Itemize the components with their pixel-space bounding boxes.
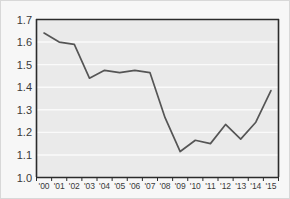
x-axis-tick-label: '06	[129, 181, 140, 191]
x-axis-tick-labels: '00'01'02'03'04'05'06'07'08'09'10'11'12'…	[39, 181, 277, 191]
x-axis-tick-label: '12	[220, 181, 231, 191]
x-axis-tick-label: '13	[235, 181, 246, 191]
y-axis-tick-label: 1.7	[17, 14, 32, 26]
x-axis-tick-label: '01	[54, 181, 65, 191]
x-axis-tick-label: '07	[144, 181, 155, 191]
x-axis-tick-label: '10	[190, 181, 201, 191]
x-axis-tick-label: '11	[205, 181, 216, 191]
x-axis-tick-label: '14	[250, 181, 261, 191]
x-axis-tick-label: '05	[114, 181, 125, 191]
x-axis-tick-label: '02	[69, 181, 80, 191]
x-axis-tick-label: '04	[99, 181, 110, 191]
y-axis-tick-label: 1.1	[17, 149, 32, 161]
y-axis-tick-labels: 1.01.11.21.31.41.51.61.7	[17, 14, 32, 184]
x-axis-tick-label: '08	[160, 181, 171, 191]
y-axis-tick-label: 1.4	[17, 81, 32, 93]
x-axis-tick-label: '09	[175, 181, 186, 191]
y-axis-tick-label: 1.3	[17, 104, 32, 116]
y-axis-tick-label: 1.0	[17, 172, 32, 184]
y-axis-tick-label: 1.2	[17, 126, 32, 138]
x-axis-tick-label: '03	[84, 181, 95, 191]
y-axis-tick-label: 1.6	[17, 36, 32, 48]
x-axis-tick-label: '15	[265, 181, 276, 191]
y-axis-tick-label: 1.5	[17, 59, 32, 71]
chart-figure: 1.01.11.21.31.41.51.61.7 '00'01'02'03'04…	[0, 0, 290, 199]
x-axis-tick-label: '00	[39, 181, 50, 191]
line-chart: 1.01.11.21.31.41.51.61.7 '00'01'02'03'04…	[1, 1, 290, 199]
